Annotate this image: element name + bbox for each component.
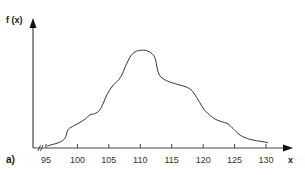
x-tick-label: 130 [258,155,273,165]
y-axis-arrow-icon [30,18,37,28]
x-tick-label: 95 [41,155,51,165]
x-tick-label: 100 [70,155,85,165]
x-tick-label: 105 [101,155,116,165]
x-tick-label: 125 [227,155,242,165]
x-tick-label: 110 [133,155,147,165]
y-axis-label: f (x) [6,15,23,25]
distribution-curve [47,50,268,146]
x-axis-label: x [288,155,293,165]
x-tick-label: 120 [196,155,211,165]
chart-canvas [0,0,305,175]
x-tick-label: 115 [165,155,179,165]
x-axis-arrow-icon [283,145,293,152]
panel-label: a) [6,154,15,165]
